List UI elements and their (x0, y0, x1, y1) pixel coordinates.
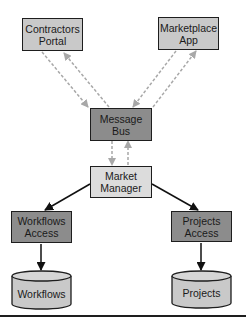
workflows-access-node: WorkflowsAccess (11, 211, 72, 243)
message-bus-node: MessageBus (90, 108, 152, 141)
edge-manager-to-workflows-access (45, 184, 90, 210)
edge-portal-to-bus (42, 52, 88, 107)
edge-manager-to-projects-access (152, 184, 198, 210)
node-label: Market (105, 170, 137, 182)
node-label: Workflows (17, 215, 65, 227)
bottom-divider (0, 315, 246, 317)
edge-marketplace-to-bus (133, 51, 176, 107)
node-label: Contractors (25, 23, 79, 35)
edge-bus-to-marketplace (153, 51, 196, 107)
node-label: Access (185, 227, 219, 239)
market-manager-node: MarketManager (90, 166, 152, 198)
projects-access-node: ProjectsAccess (171, 211, 232, 242)
node-label: Message (100, 113, 143, 125)
node-label: Bus (112, 125, 130, 137)
node-label: Manager (100, 182, 141, 194)
contractors-portal-node: ContractorsPortal (22, 18, 83, 51)
projects-db-label: Projects (172, 287, 231, 299)
edge-bus-to-portal (64, 53, 109, 107)
node-label: Access (25, 227, 59, 239)
node-label: Projects (183, 215, 221, 227)
node-label: App (179, 34, 198, 46)
marketplace-app-node: MarketplaceApp (158, 17, 219, 50)
node-label: Portal (39, 35, 66, 47)
node-label: Marketplace (160, 22, 217, 34)
workflows-db-label: Workflows (12, 288, 71, 300)
